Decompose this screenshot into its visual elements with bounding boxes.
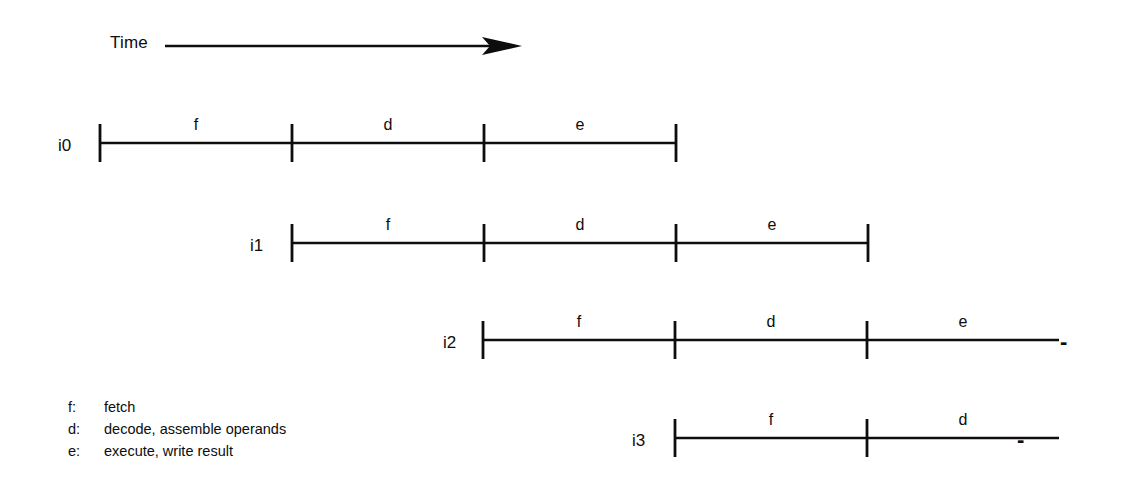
stage-letter-i0-d: d — [384, 117, 393, 133]
stage-letter-i0-e: e — [576, 117, 585, 133]
stage-letter-i3-f: f — [769, 412, 773, 428]
legend-description: execute, write result — [104, 440, 233, 462]
stage-letter-i2-e: e — [959, 314, 968, 330]
legend-item-d: d:decode, assemble operands — [68, 418, 286, 440]
legend-description: decode, assemble operands — [104, 418, 286, 440]
legend-item-f: f:fetch — [68, 396, 286, 418]
legend-description: fetch — [104, 396, 135, 418]
stage-letter-i2-f: f — [577, 314, 581, 330]
time-axis: Time — [100, 28, 530, 64]
stage-letter-i1-f: f — [386, 217, 390, 233]
legend-key: f: — [68, 396, 104, 418]
stage-letter-i1-d: d — [576, 217, 585, 233]
instruction-label-i2: i2 — [443, 334, 456, 351]
instruction-label-i3: i3 — [632, 432, 645, 449]
stage-letter-i3-d: d — [959, 412, 968, 428]
time-arrow-icon — [160, 28, 530, 64]
legend-key: d: — [68, 418, 104, 440]
instruction-label-i0: i0 — [58, 137, 71, 154]
stage-letter-i1-e: e — [768, 217, 777, 233]
stage-letter-i2-d: d — [767, 314, 776, 330]
continuation-dash-i3: - — [1017, 429, 1024, 451]
instruction-label-i1: i1 — [250, 237, 263, 254]
legend: f:fetchd:decode, assemble operandse:exec… — [68, 396, 286, 462]
instruction-row-i0: i0fde — [0, 113, 1122, 173]
legend-item-e: e:execute, write result — [68, 440, 286, 462]
instruction-row-i2: i2fde- — [0, 310, 1122, 370]
stage-letter-i0-f: f — [194, 117, 198, 133]
legend-key: e: — [68, 440, 104, 462]
timeline-i3 — [672, 408, 1064, 468]
time-axis-label: Time — [110, 33, 148, 53]
continuation-dash-i2: - — [1060, 331, 1067, 353]
instruction-row-i1: i1fde — [0, 213, 1122, 273]
